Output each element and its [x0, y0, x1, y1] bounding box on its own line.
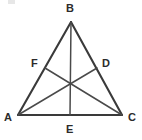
cevian-BE [70, 22, 71, 115]
vertex-label-C: C [128, 112, 136, 123]
triangle-figure [0, 0, 142, 140]
vertex-label-B: B [66, 3, 74, 14]
vertex-label-A: A [4, 112, 12, 123]
point-label-D: D [102, 58, 110, 69]
point-label-F: F [31, 58, 38, 69]
geometry-diagram: A B C D E F [0, 0, 142, 140]
point-label-E: E [66, 124, 73, 135]
